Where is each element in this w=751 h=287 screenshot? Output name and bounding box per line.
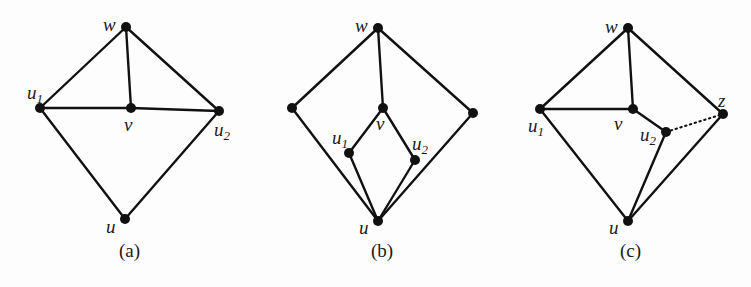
- edge-w-z: [628, 28, 723, 114]
- label-w: w: [355, 15, 368, 36]
- caption-b: (b): [371, 240, 393, 262]
- label-u1: u1: [27, 82, 43, 106]
- panel-b: w v u1 u2 u (b): [287, 15, 478, 262]
- node-w: [121, 22, 131, 32]
- node-right: [468, 108, 478, 118]
- label-v: v: [124, 114, 133, 135]
- node-u2: [661, 127, 671, 137]
- label-v: v: [614, 113, 623, 134]
- panel-a: w u1 v u2 u (a): [27, 14, 231, 262]
- label-w: w: [103, 14, 116, 35]
- edge-v-u2: [633, 109, 666, 132]
- caption-c: (c): [620, 240, 641, 262]
- edge-u2-u: [125, 111, 219, 219]
- label-u: u: [609, 217, 619, 238]
- node-v: [126, 103, 136, 113]
- label-v: v: [376, 113, 385, 134]
- node-u: [120, 214, 130, 224]
- label-u: u: [359, 217, 369, 238]
- graph-figure: w u1 v u2 u (a) w v u1: [0, 0, 751, 287]
- label-u1: u1: [528, 115, 544, 139]
- edge-w-right: [378, 28, 473, 113]
- graph-canvas: w u1 v u2 u (a) w v u1: [0, 0, 751, 287]
- edge-u1-u: [40, 108, 125, 219]
- label-u2: u2: [412, 133, 429, 157]
- node-v: [378, 103, 388, 113]
- edge-w-v: [126, 27, 131, 108]
- node-u: [623, 216, 633, 226]
- node-u2: [214, 106, 224, 116]
- label-u2: u2: [640, 124, 657, 148]
- edge-v-u2: [131, 108, 219, 111]
- label-u: u: [106, 216, 116, 237]
- node-u2: [410, 155, 420, 165]
- node-w: [623, 23, 633, 33]
- node-u: [373, 216, 383, 226]
- edge-left-u: [292, 108, 378, 221]
- label-u2: u2: [214, 119, 231, 143]
- edge-w-u1: [40, 27, 126, 108]
- node-v: [628, 104, 638, 114]
- edge-w-v: [378, 28, 383, 108]
- edge-w-u2: [126, 27, 219, 111]
- edge-u2-u: [628, 132, 666, 221]
- label-w: w: [605, 16, 618, 37]
- node-w: [373, 23, 383, 33]
- edge-w-v: [628, 28, 633, 109]
- caption-a: (a): [119, 240, 140, 262]
- edge-w-left: [292, 28, 378, 108]
- edge-u2-u: [378, 160, 415, 221]
- edge-v-u2: [383, 108, 415, 160]
- label-u1: u1: [332, 127, 348, 151]
- label-z: z: [717, 90, 726, 111]
- panel-c: w u1 v u2 z u (c): [528, 16, 728, 262]
- node-left: [287, 103, 297, 113]
- edge-w-u1: [540, 28, 628, 109]
- edge-right-u: [378, 113, 473, 221]
- node-u1: [535, 104, 545, 114]
